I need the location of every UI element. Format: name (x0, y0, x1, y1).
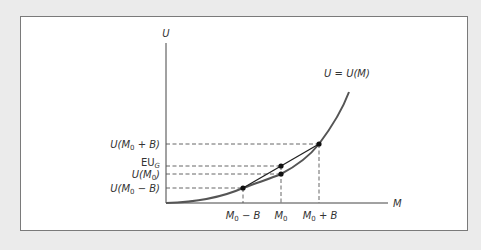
utility-curve (166, 92, 349, 203)
y-label-u-m0-minus-b: U(M0 − B) (110, 183, 160, 196)
x-label-m0-minus-b: M0 − B (226, 210, 261, 223)
point-m0-plus-b (316, 141, 321, 146)
point-u-m0 (278, 171, 283, 176)
y-label-u-m0-plus-b: U(M0 + B) (110, 139, 160, 152)
curve-label: U = U(M) (324, 68, 370, 79)
x-axis-label: M (393, 198, 402, 209)
x-label-m0-plus-b: M0 + B (303, 210, 338, 223)
utility-diagram: U M U = U(M) U(M0 + B) EUG U(M0) U(M0 − … (0, 0, 481, 250)
point-m0-minus-b (240, 185, 245, 190)
y-axis-label: U (162, 28, 170, 39)
y-label-u-m0: U(M0) (132, 169, 160, 182)
point-eu-g (278, 163, 283, 168)
x-label-m0: M0 (274, 210, 287, 223)
